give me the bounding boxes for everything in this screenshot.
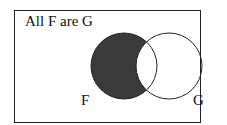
label-f: F xyxy=(81,92,89,109)
label-g: G xyxy=(193,92,204,109)
